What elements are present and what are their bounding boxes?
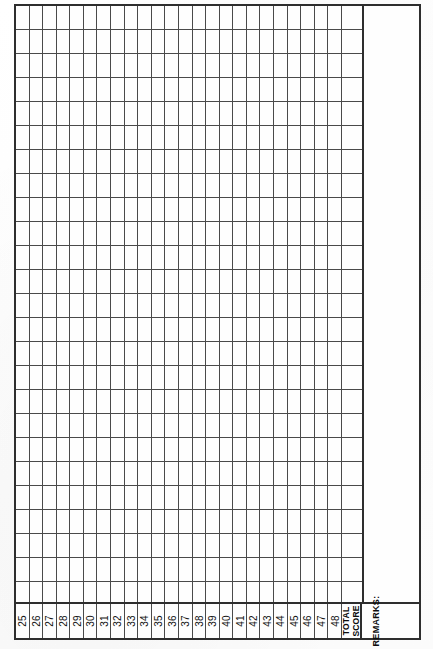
score-cell[interactable] (328, 222, 342, 245)
score-cell[interactable] (260, 78, 274, 101)
score-cell[interactable] (288, 54, 302, 77)
score-cell[interactable] (328, 510, 342, 533)
score-cell[interactable] (301, 510, 315, 533)
score-cell[interactable] (220, 30, 234, 53)
score-cell[interactable] (16, 126, 30, 149)
score-cell[interactable] (220, 558, 234, 581)
score-cell[interactable] (125, 390, 139, 413)
score-cell[interactable] (84, 510, 98, 533)
score-cell[interactable] (288, 438, 302, 461)
score-cell[interactable] (315, 510, 329, 533)
total-score-cell[interactable] (342, 486, 362, 509)
score-cell[interactable] (43, 366, 57, 389)
score-cell[interactable] (247, 102, 261, 125)
score-cell[interactable] (16, 54, 30, 77)
score-cell[interactable] (30, 390, 44, 413)
score-cell[interactable] (125, 30, 139, 53)
total-score-cell[interactable] (342, 6, 362, 29)
score-cell[interactable] (233, 270, 247, 293)
score-cell[interactable] (165, 414, 179, 437)
score-cell[interactable] (138, 198, 152, 221)
score-cell[interactable] (30, 366, 44, 389)
score-cell[interactable] (70, 6, 84, 29)
score-cell[interactable] (152, 102, 166, 125)
score-cell[interactable] (111, 438, 125, 461)
score-cell[interactable] (260, 6, 274, 29)
score-cell[interactable] (193, 294, 207, 317)
score-cell[interactable] (260, 150, 274, 173)
score-cell[interactable] (43, 414, 57, 437)
score-cell[interactable] (206, 318, 220, 341)
score-cell[interactable] (57, 102, 71, 125)
score-cell[interactable] (206, 486, 220, 509)
score-cell[interactable] (84, 174, 98, 197)
score-cell[interactable] (111, 174, 125, 197)
score-cell[interactable] (70, 198, 84, 221)
score-cell[interactable] (206, 54, 220, 77)
score-cell[interactable] (328, 438, 342, 461)
score-cell[interactable] (97, 366, 111, 389)
score-cell[interactable] (193, 126, 207, 149)
score-cell[interactable] (125, 414, 139, 437)
score-cell[interactable] (233, 150, 247, 173)
score-cell[interactable] (301, 414, 315, 437)
score-cell[interactable] (16, 174, 30, 197)
score-cell[interactable] (70, 534, 84, 557)
score-cell[interactable] (288, 342, 302, 365)
score-cell[interactable] (16, 6, 30, 29)
score-cell[interactable] (70, 294, 84, 317)
score-cell[interactable] (57, 414, 71, 437)
score-cell[interactable] (220, 366, 234, 389)
score-cell[interactable] (274, 126, 288, 149)
score-cell[interactable] (138, 102, 152, 125)
score-cell[interactable] (233, 30, 247, 53)
score-cell[interactable] (84, 78, 98, 101)
score-cell[interactable] (220, 438, 234, 461)
score-cell[interactable] (260, 102, 274, 125)
score-cell[interactable] (233, 510, 247, 533)
score-cell[interactable] (233, 6, 247, 29)
score-cell[interactable] (301, 462, 315, 485)
score-cell[interactable] (328, 318, 342, 341)
score-cell[interactable] (179, 174, 193, 197)
remarks-write-area[interactable] (364, 6, 419, 602)
score-cell[interactable] (30, 30, 44, 53)
total-score-cell[interactable] (342, 534, 362, 557)
total-score-cell[interactable] (342, 198, 362, 221)
score-cell[interactable] (165, 6, 179, 29)
score-cell[interactable] (30, 246, 44, 269)
score-cell[interactable] (125, 78, 139, 101)
score-cell[interactable] (220, 462, 234, 485)
score-cell[interactable] (301, 342, 315, 365)
score-cell[interactable] (179, 54, 193, 77)
score-cell[interactable] (301, 6, 315, 29)
score-cell[interactable] (301, 102, 315, 125)
score-cell[interactable] (274, 558, 288, 581)
score-cell[interactable] (179, 438, 193, 461)
score-cell[interactable] (125, 486, 139, 509)
score-cell[interactable] (233, 54, 247, 77)
score-cell[interactable] (328, 126, 342, 149)
score-cell[interactable] (274, 318, 288, 341)
score-cell[interactable] (43, 54, 57, 77)
score-cell[interactable] (193, 438, 207, 461)
score-cell[interactable] (301, 366, 315, 389)
score-cell[interactable] (125, 150, 139, 173)
score-cell[interactable] (206, 270, 220, 293)
score-cell[interactable] (274, 198, 288, 221)
score-cell[interactable] (43, 342, 57, 365)
score-cell[interactable] (288, 558, 302, 581)
score-cell[interactable] (43, 486, 57, 509)
score-cell[interactable] (247, 30, 261, 53)
score-cell[interactable] (43, 318, 57, 341)
score-cell[interactable] (328, 558, 342, 581)
score-cell[interactable] (260, 318, 274, 341)
score-cell[interactable] (97, 318, 111, 341)
score-cell[interactable] (301, 246, 315, 269)
total-score-cell[interactable] (342, 510, 362, 533)
score-cell[interactable] (274, 30, 288, 53)
score-cell[interactable] (111, 246, 125, 269)
score-cell[interactable] (70, 342, 84, 365)
score-cell[interactable] (97, 174, 111, 197)
score-cell[interactable] (315, 462, 329, 485)
